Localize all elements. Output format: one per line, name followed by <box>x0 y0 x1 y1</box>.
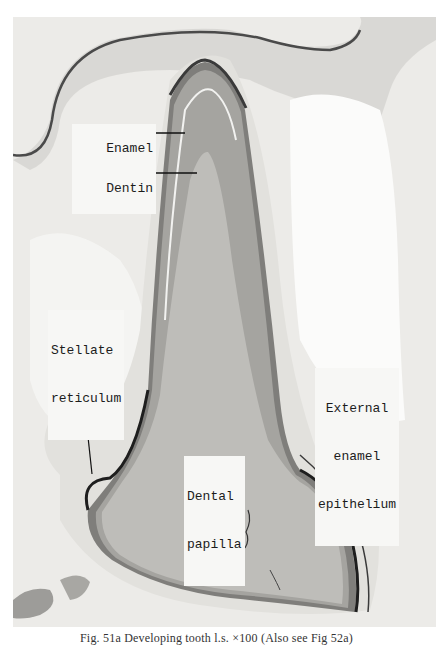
label-stellate-reticulum: Stellate reticulum <box>48 310 124 440</box>
figure-caption: Fig. 51a Developing tooth l.s. ×100 (Als… <box>80 631 353 646</box>
label-dentin: Dentin <box>72 164 156 214</box>
label-external-line2: enamel <box>318 449 396 465</box>
label-dentin-text: Dentin <box>106 181 153 196</box>
label-external-line3: epithelium <box>318 497 396 513</box>
label-dental-papilla: Dental papilla <box>184 456 245 586</box>
histology-micrograph: Enamel Dentin Stellate reticulum Externa… <box>13 17 436 627</box>
label-stellate-line2: reticulum <box>51 391 121 407</box>
label-external-line1: External <box>318 401 396 417</box>
label-external-enamel-epithelium: External enamel epithelium <box>315 368 399 546</box>
label-stellate-line1: Stellate <box>51 343 121 359</box>
label-enamel-text: Enamel <box>106 141 153 156</box>
label-dental-papilla-line2: papilla <box>187 537 242 553</box>
label-dental-papilla-line1: Dental <box>187 489 242 505</box>
